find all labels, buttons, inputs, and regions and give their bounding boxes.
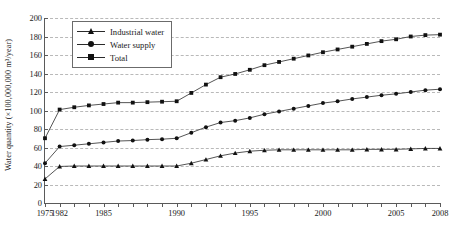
y-tick-label: 100	[29, 106, 42, 115]
y-tick-label: 120	[29, 88, 42, 97]
data-point-marker	[160, 137, 164, 141]
data-point-marker	[116, 139, 120, 143]
data-point-marker	[423, 33, 427, 37]
data-point-marker	[175, 136, 179, 140]
data-point-marker	[350, 97, 354, 101]
x-tick-mark	[60, 203, 61, 207]
data-point-marker	[306, 104, 310, 108]
x-tick-mark	[235, 203, 236, 207]
data-point-marker	[438, 33, 442, 37]
data-point-marker	[58, 108, 62, 112]
x-tick-mark	[133, 203, 134, 207]
data-point-marker	[394, 92, 398, 96]
x-tick-mark	[221, 203, 222, 207]
data-point-marker	[145, 138, 149, 142]
data-point-marker	[219, 121, 223, 125]
x-tick-mark	[367, 203, 368, 207]
data-point-marker	[233, 119, 237, 123]
data-point-marker	[43, 136, 47, 140]
x-tick-mark	[411, 203, 412, 207]
legend-swatch-triangle-icon	[77, 26, 105, 37]
x-tick-mark	[191, 203, 192, 207]
data-point-marker	[248, 116, 252, 120]
x-tick-mark	[250, 203, 251, 207]
data-point-marker	[87, 142, 91, 146]
y-tick-label: 40	[34, 162, 42, 171]
data-point-marker	[292, 57, 296, 61]
x-tick-mark	[45, 203, 46, 207]
legend-swatch-circle-icon	[77, 39, 105, 50]
x-tick-mark	[264, 203, 265, 207]
x-tick-label: 1995	[241, 209, 258, 218]
y-tick-label: 60	[34, 143, 42, 152]
data-point-marker	[116, 101, 120, 105]
data-point-marker	[277, 60, 281, 64]
data-point-marker	[409, 90, 413, 94]
y-tick-label: 20	[34, 180, 42, 189]
y-tick-label: 140	[29, 69, 42, 78]
data-point-marker	[219, 75, 223, 79]
data-point-marker	[160, 100, 164, 104]
legend-label: Industrial water	[110, 27, 164, 37]
data-point-marker	[72, 143, 76, 147]
legend-swatch-square-icon	[77, 52, 105, 63]
data-point-marker	[350, 45, 354, 49]
y-tick-label: 160	[29, 51, 42, 60]
water-quantity-line-chart: Water quantity (×100,000,000 m³/year) 02…	[0, 0, 450, 231]
x-tick-label: 2005	[388, 209, 405, 218]
legend-item-total: Total	[77, 51, 164, 64]
x-tick-mark	[425, 203, 426, 207]
series-industrial-water	[43, 146, 443, 181]
x-tick-mark	[338, 203, 339, 207]
data-point-marker	[131, 139, 135, 143]
y-tick-label: 80	[34, 125, 42, 134]
x-tick-mark	[381, 203, 382, 207]
data-point-marker	[72, 105, 76, 109]
x-tick-mark	[279, 203, 280, 207]
data-point-marker	[438, 87, 442, 91]
data-point-marker	[380, 39, 384, 43]
data-point-marker	[146, 100, 150, 104]
x-tick-label: 2008	[432, 209, 449, 218]
data-point-marker	[87, 104, 91, 108]
data-point-marker	[321, 101, 325, 105]
x-tick-mark	[89, 203, 90, 207]
data-point-marker	[131, 101, 135, 105]
x-tick-label: 1982	[51, 209, 68, 218]
x-tick-label: 2000	[315, 209, 332, 218]
legend: Industrial water Water supply Total	[72, 21, 172, 68]
data-point-marker	[336, 99, 340, 103]
series-line	[45, 148, 440, 179]
y-tick-label: 0	[38, 199, 42, 208]
x-tick-mark	[104, 203, 105, 207]
data-point-marker	[365, 42, 369, 46]
data-point-marker	[248, 68, 252, 72]
data-point-marker	[58, 145, 62, 149]
x-tick-mark	[396, 203, 397, 207]
y-axis-title: Water quantity (×100,000,000 m³/year)	[1, 0, 15, 210]
data-point-marker	[102, 140, 106, 144]
data-point-marker	[409, 35, 413, 39]
x-tick-mark	[177, 203, 178, 207]
data-point-marker	[102, 102, 106, 106]
data-point-marker	[394, 37, 398, 41]
x-tick-mark	[352, 203, 353, 207]
data-point-marker	[204, 125, 208, 129]
data-point-marker	[321, 50, 325, 54]
x-tick-mark	[206, 203, 207, 207]
series-water-supply	[43, 87, 442, 165]
data-point-marker	[263, 63, 267, 67]
data-point-marker	[379, 93, 383, 97]
x-tick-mark	[118, 203, 119, 207]
y-axis-title-text: Water quantity (×100,000,000 m³/year)	[4, 39, 13, 171]
data-point-marker	[204, 83, 208, 87]
data-point-marker	[306, 54, 310, 58]
data-point-marker	[175, 99, 179, 103]
x-tick-label: 1985	[95, 209, 112, 218]
legend-label: Total	[110, 53, 128, 63]
x-tick-mark	[323, 203, 324, 207]
data-point-marker	[262, 112, 266, 116]
data-point-marker	[292, 107, 296, 111]
x-tick-mark	[308, 203, 309, 207]
x-tick-mark	[162, 203, 163, 207]
